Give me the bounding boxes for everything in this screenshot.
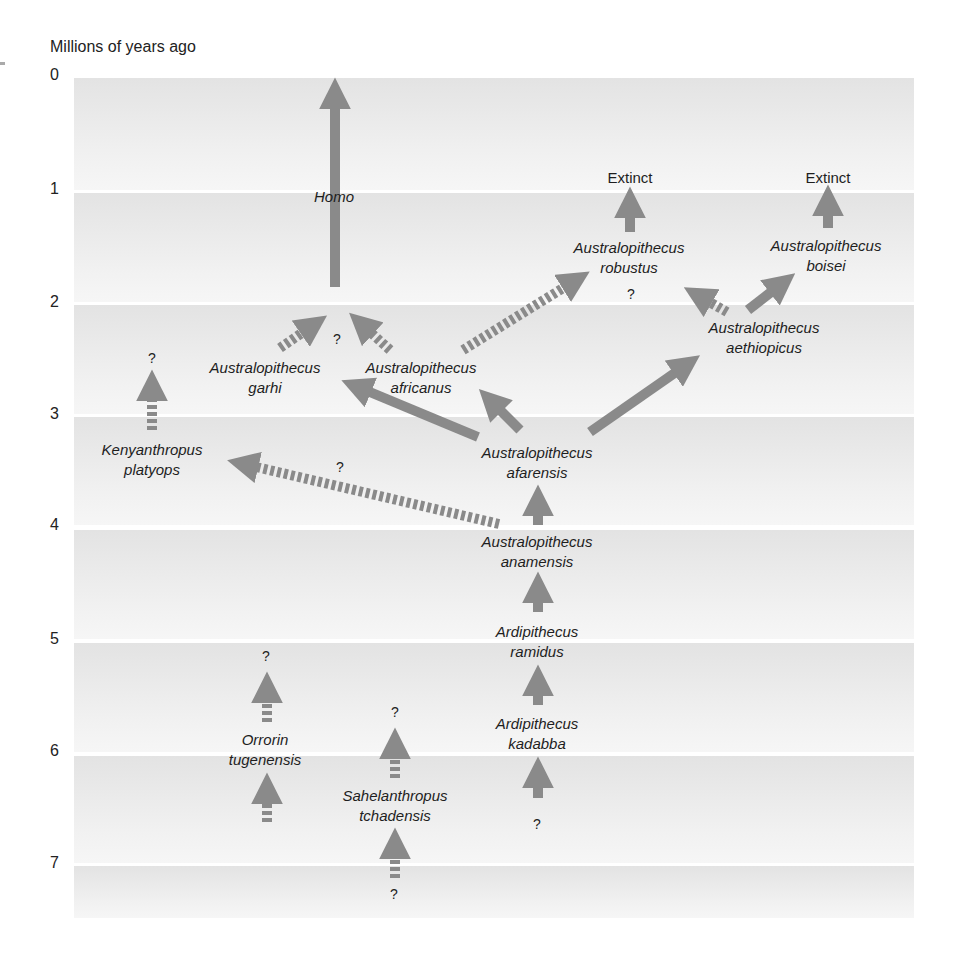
- taxon-homo: Homo: [314, 187, 354, 207]
- arrow-africanus-homo: [368, 330, 390, 350]
- taxon-orrorin: Orrorintugenensis: [229, 730, 302, 770]
- uncertain-mark-kenyanthropus: ?: [148, 350, 156, 366]
- taxon-garhi: Australopithecusgarhi: [210, 358, 321, 398]
- taxon-kadabba: Ardipithecuskadabba: [496, 714, 579, 754]
- uncertain-mark-homo: ?: [333, 331, 341, 347]
- arrow-aethiopicus-boisei: [748, 289, 775, 310]
- taxon-ramidus: Ardipithecusramidus: [496, 622, 579, 662]
- uncertain-mark-robustus: ?: [627, 286, 635, 302]
- arrow-garhi-homo: [280, 330, 306, 348]
- arrow-afarensis-aethiopicus: [590, 370, 679, 432]
- taxon-africanus: Australopithecusafricanus: [366, 358, 477, 398]
- arrow-anamensis-kenyanthropus: [252, 466, 499, 524]
- arrow-afarensis-africanus: [497, 407, 520, 430]
- taxon-boisei: Australopithecusboisei: [771, 236, 882, 276]
- taxon-robustus: Australopithecusrobustus: [574, 238, 685, 278]
- uncertain-mark-sahelanthropus-bottom: ?: [390, 886, 398, 902]
- uncertain-mark-orrorin: ?: [262, 648, 270, 664]
- uncertain-mark-sahelanthropus-top: ?: [391, 704, 399, 720]
- arrow-aethiopicus-robustus: [706, 300, 727, 312]
- outcome-extinct-boisei: Extinct: [805, 168, 850, 188]
- taxon-aethiopicus: Australopithecusaethiopicus: [709, 318, 820, 358]
- uncertain-mark-kadabba: ?: [533, 816, 541, 832]
- taxon-afarensis: Australopithecusafarensis: [482, 443, 593, 483]
- taxon-kenyanthropus: Kenyanthropusplatyops: [102, 440, 203, 480]
- taxon-sahelanthropus: Sahelanthropustchadensis: [342, 786, 447, 826]
- taxon-anamensis: Australopithecusanamensis: [482, 532, 593, 572]
- arrow-africanus-robustus: [463, 285, 568, 350]
- uncertain-mark-kenyanthropus-link: ?: [336, 459, 344, 475]
- outcome-extinct-robustus: Extinct: [607, 168, 652, 188]
